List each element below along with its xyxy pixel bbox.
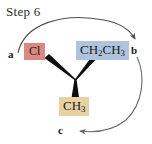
priority-label-c: c [58, 124, 63, 136]
arrow-b-to-c [80, 57, 142, 132]
substituent-label-ethyl: CH2CH3 [76, 41, 129, 60]
priority-label-b: b [131, 44, 137, 56]
priority-label-a: a [8, 48, 14, 60]
stereochemistry-figure: Step 6 Cl CH2CH3 CH3 a b c [0, 0, 152, 144]
chlorine-text: Cl [29, 44, 40, 58]
arrow-layer [0, 0, 152, 144]
substituent-label-chlorine: Cl [24, 43, 45, 60]
substituent-label-methyl: CH3 [59, 97, 89, 116]
